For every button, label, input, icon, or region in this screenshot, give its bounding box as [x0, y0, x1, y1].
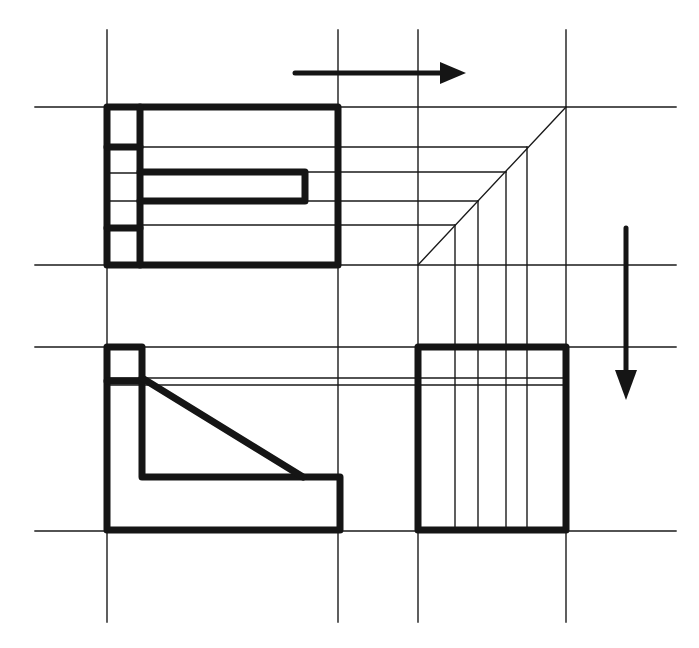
arrow-right-head-icon — [440, 62, 466, 84]
miter-line — [418, 107, 566, 265]
projection-arrow-right — [295, 62, 466, 84]
front-view-rib — [142, 378, 303, 477]
top-view-slot — [140, 172, 305, 201]
top-view — [107, 107, 338, 265]
front-view-projection-lines — [107, 378, 566, 385]
front-view-outline — [107, 347, 340, 530]
side-view — [418, 347, 566, 530]
arrow-down-head-icon — [615, 370, 637, 400]
orthographic-drawing — [0, 0, 699, 648]
top-view-projection-lines — [107, 147, 527, 225]
front-view — [107, 347, 340, 530]
construction-grid-horizontal — [35, 107, 676, 531]
projection-arrow-down — [615, 228, 637, 400]
side-view-projection-lines — [455, 147, 527, 531]
side-view-outline — [418, 347, 566, 530]
